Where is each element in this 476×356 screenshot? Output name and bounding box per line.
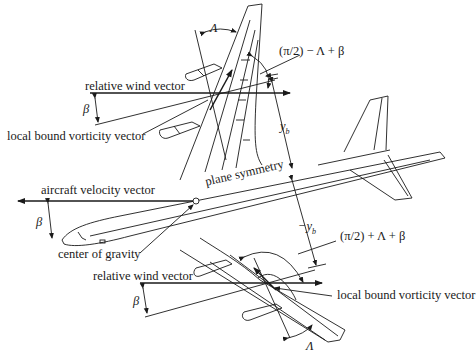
beta-arrow-bottom [143, 288, 147, 313]
beta-label-bottom: β [133, 295, 139, 308]
neg-yb-subscript: b [312, 227, 316, 236]
beta-label-top: β [83, 103, 89, 116]
angle-arc-bottom [244, 252, 303, 282]
beta-arrow-middle [48, 203, 52, 238]
lower-wing [180, 238, 345, 342]
lambda-arc-bottom [288, 325, 312, 338]
upper-wing [180, 4, 262, 180]
upper-engine-inboard [159, 122, 200, 138]
lower-reference-lines [140, 241, 336, 338]
yb-label: yb [280, 120, 290, 136]
center-of-gravity-label: center of gravity [58, 248, 141, 261]
relative-wind-label-top: relative wind vector [85, 80, 185, 93]
aircraft-velocity-label: aircraft velocity vector [41, 184, 155, 197]
lambda-label-top: Λ [210, 22, 218, 35]
angle-label-top: (π/2) − Λ + β [279, 45, 344, 58]
beta-label-middle: β [36, 216, 42, 229]
local-bound-vorticity-label-top: local bound vorticity vector [7, 130, 146, 143]
beta-arrow-top [95, 98, 98, 122]
local-bound-vorticity-label-bottom: local bound vorticity vector [337, 289, 476, 302]
yb-subscript: b [286, 127, 290, 136]
local-bound-vorticity-vector-bottom [254, 268, 276, 290]
tail [318, 96, 412, 200]
angle-label-bottom: (π/2) + Λ + β [340, 230, 405, 243]
relative-wind-label-bottom: relative wind vector [93, 270, 193, 283]
lambda-label-bottom: Λ [306, 340, 314, 353]
neg-yb-symbol: −y [298, 219, 312, 233]
yb-dimension [268, 78, 326, 268]
neg-yb-label: −yb [298, 220, 316, 236]
center-of-gravity-marker [193, 198, 199, 204]
